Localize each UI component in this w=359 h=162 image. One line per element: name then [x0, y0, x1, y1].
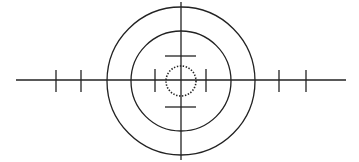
crosshair-reticle — [0, 0, 359, 162]
